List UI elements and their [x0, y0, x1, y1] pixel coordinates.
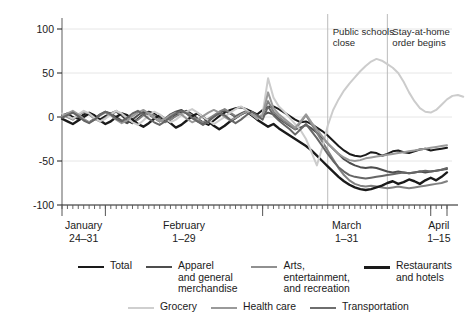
legend-label: Apparel and general merchandise [178, 260, 238, 295]
legend-row-secondary: GroceryHealth careTransportation [128, 301, 423, 313]
legend-label: Total [110, 260, 132, 272]
x-tick-group-label: February1–29 [124, 219, 244, 244]
legend-label: Arts, entertainment, and recreation [283, 260, 349, 295]
legend-item[interactable]: Apparel and general merchandise [146, 260, 238, 295]
legend-swatch-icon [251, 266, 277, 268]
x-tick-range: 1–29 [124, 232, 244, 245]
legend-swatch-icon [146, 266, 172, 269]
legend-swatch-icon [128, 307, 154, 309]
x-tick-month: January [65, 219, 102, 231]
series-line-health-care [62, 92, 447, 161]
legend-item[interactable]: Transportation [310, 301, 409, 313]
legend-item[interactable]: Restaurants and hotels [364, 260, 452, 283]
legend-swatch-icon [364, 266, 390, 269]
legend-item[interactable]: Total [78, 260, 132, 272]
legend-item[interactable]: Grocery [128, 301, 197, 313]
legend-label: Transportation [342, 301, 409, 313]
legend-swatch-icon [211, 307, 237, 309]
legend-row-primary: TotalApparel and general merchandiseArts… [78, 260, 465, 295]
legend-item[interactable]: Arts, entertainment, and recreation [251, 260, 349, 295]
legend-label: Grocery [160, 301, 197, 313]
legend-swatch-icon [78, 266, 104, 269]
x-tick-month: April [428, 219, 449, 231]
annotation-label: Stay-at-home order begins [392, 26, 464, 48]
series-line-restaurants [62, 112, 447, 190]
legend-swatch-icon [310, 307, 336, 309]
x-tick-month: February [163, 219, 205, 231]
x-tick-group-label: April1–15 [379, 219, 465, 244]
x-tick-month: March [332, 219, 361, 231]
chart-container: Percentage change from January 2020 1005… [0, 0, 465, 331]
legend-label: Restaurants and hotels [396, 260, 452, 283]
legend-label: Health care [243, 301, 296, 313]
x-tick-range: 1–15 [379, 232, 465, 245]
legend-item[interactable]: Health care [211, 301, 296, 313]
